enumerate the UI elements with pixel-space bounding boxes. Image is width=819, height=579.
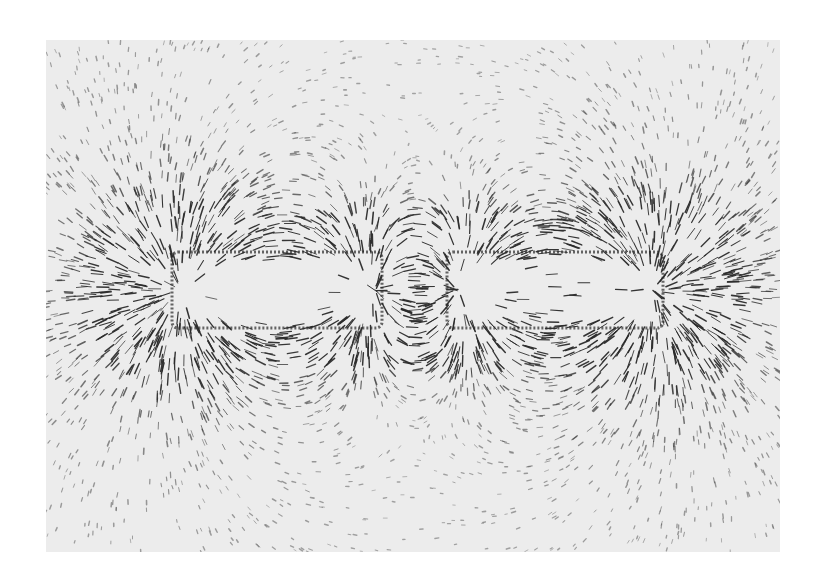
magnetic-field-pattern (46, 40, 780, 552)
left-pole (172, 252, 382, 328)
right-pole (447, 252, 663, 328)
iron-filings-photo (46, 40, 780, 552)
